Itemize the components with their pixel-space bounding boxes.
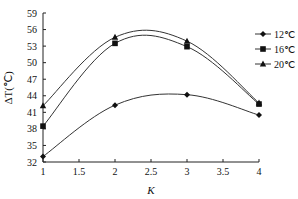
legend-item: 12℃ [255, 29, 295, 40]
square-marker-icon [184, 44, 190, 50]
legend-label: 16℃ [274, 44, 295, 55]
series-lines [40, 30, 262, 159]
series-line [43, 35, 259, 126]
y-tick-label: 59 [27, 8, 37, 19]
legend-item: 16℃ [255, 44, 295, 55]
x-tick-label: 2 [113, 166, 118, 177]
square-legend-icon [260, 46, 266, 52]
y-tick-label: 53 [27, 41, 37, 52]
y-tick-label: 35 [27, 140, 37, 151]
legend-label: 12℃ [274, 29, 295, 40]
diamond-marker-icon [112, 102, 118, 108]
x-tick-label: 2.5 [145, 166, 158, 177]
y-tick-label: 41 [27, 107, 37, 118]
x-axis-title: K [146, 184, 155, 196]
series-line [43, 30, 259, 106]
y-tick-label: 38 [27, 123, 37, 134]
legend-item: 20℃ [255, 59, 295, 70]
square-marker-icon [40, 123, 46, 129]
axes: 3235384144475053565911.522.533.54 [27, 8, 262, 178]
y-tick-label: 32 [27, 157, 37, 168]
series-12c [40, 92, 262, 160]
chart-canvas: 3235384144475053565911.522.533.54 12℃16℃… [0, 0, 298, 199]
legend-label: 20℃ [274, 59, 295, 70]
x-tick-label: 1.5 [73, 166, 86, 177]
x-tick-label: 1 [41, 166, 46, 177]
x-tick-label: 3 [185, 166, 190, 177]
y-tick-label: 50 [27, 57, 37, 68]
diamond-legend-icon [260, 31, 266, 37]
x-tick-label: 3.5 [217, 166, 230, 177]
series-20c [40, 30, 262, 108]
series-16c [40, 35, 262, 129]
square-marker-icon [112, 41, 118, 47]
y-tick-label: 44 [27, 90, 37, 101]
y-tick-label: 56 [27, 24, 37, 35]
x-tick-label: 4 [257, 166, 262, 177]
legend: 12℃16℃20℃ [255, 29, 295, 70]
line-chart: 3235384144475053565911.522.533.54 12℃16℃… [0, 0, 298, 199]
y-tick-label: 47 [27, 74, 37, 85]
diamond-marker-icon [184, 92, 190, 98]
series-line [43, 94, 259, 156]
y-axis-title: ΔT(℃) [2, 71, 15, 104]
diamond-marker-icon [256, 112, 262, 118]
